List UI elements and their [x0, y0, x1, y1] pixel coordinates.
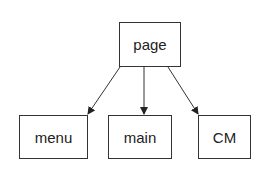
node-cm-label: CM: [213, 129, 236, 146]
edge-page-menu: [88, 67, 120, 114]
node-page: page: [119, 22, 181, 67]
node-main: main: [108, 115, 172, 159]
node-main-label: main: [124, 129, 157, 146]
node-cm: CM: [198, 115, 251, 159]
edge-page-cm: [168, 67, 198, 114]
node-menu: menu: [19, 115, 88, 159]
diagram-canvas: page menu main CM: [0, 0, 268, 173]
node-menu-label: menu: [35, 129, 73, 146]
node-page-label: page: [133, 36, 166, 53]
